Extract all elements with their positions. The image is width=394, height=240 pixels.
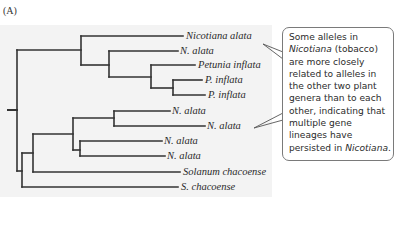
leaf-label: N. alata xyxy=(207,120,241,132)
annotation-callout: Some alleles in Nicotiana (tobacco) are … xyxy=(282,27,394,161)
callout-text: (tobacco) xyxy=(332,44,378,54)
leaf-label: N. alata xyxy=(164,135,198,147)
genus-name: Nicotiana xyxy=(345,143,388,153)
leaf-label: N. alata xyxy=(167,150,201,162)
callout-line: the other two plant xyxy=(289,80,391,92)
callout-line: multiple gene xyxy=(289,117,391,129)
leaf-label: Petunia inflata xyxy=(198,59,261,71)
callout-line: genera than to each xyxy=(289,92,391,104)
genus-name: Nicotiana xyxy=(289,44,332,54)
callout-line: related to alleles in xyxy=(289,68,391,80)
callout-line: lineages have xyxy=(289,129,391,141)
callout-line: other, indicating that xyxy=(289,105,391,117)
leaf-label: N. alata xyxy=(180,45,214,57)
callout-line: Some alleles in xyxy=(289,31,391,43)
callout-pointer-lines xyxy=(254,44,283,128)
leaf-label: P. inflata xyxy=(205,74,243,86)
callout-line: Nicotiana (tobacco) xyxy=(289,43,391,55)
leaf-label: N. alata xyxy=(172,105,206,117)
callout-line: are more closely xyxy=(289,56,391,68)
callout-text: . xyxy=(388,143,391,153)
callout-text: persisted in xyxy=(289,143,345,153)
leaf-label: Solanum chacoense xyxy=(183,166,266,178)
leaf-label: P. inflata xyxy=(208,89,246,101)
leaf-label: Nicotiana alata xyxy=(186,30,252,42)
callout-line: persisted in Nicotiana. xyxy=(289,142,391,154)
leaf-label: S. chacoense xyxy=(181,181,235,193)
